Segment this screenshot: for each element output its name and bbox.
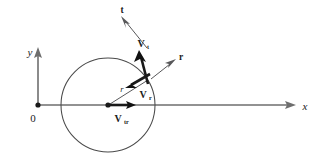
vtr-symbol: V: [114, 113, 122, 124]
origin-dot: [35, 102, 40, 107]
unit-vector-r-label: r: [179, 52, 184, 62]
radius-label: r: [120, 84, 124, 94]
unit-vector-t-label: t: [120, 5, 124, 15]
velocity-vector-vt-label: V t: [137, 38, 150, 50]
circular-motion-vector-diagram: y x 0 t r r V t V r V tr: [0, 0, 318, 163]
y-axis-label: y: [27, 46, 33, 58]
velocity-vector-vr-label: V r: [139, 89, 152, 101]
vt-subscript: t: [147, 43, 150, 50]
unit-vector-r-group: [151, 59, 176, 79]
velocity-vector-vtr-label: V tr: [114, 113, 129, 125]
vtr-subscript: tr: [124, 118, 129, 125]
y-axis-group: [34, 47, 42, 105]
x-axis-label: x: [302, 100, 308, 112]
circle-center-dot: [105, 102, 110, 107]
vr-subscript: r: [149, 94, 152, 101]
x-axis-group: [38, 101, 296, 109]
origin-label: 0: [30, 112, 36, 124]
unit-vector-t-arrowhead: [121, 16, 130, 28]
unit-vector-r-line: [151, 64, 170, 79]
vr-symbol: V: [139, 89, 147, 100]
velocity-vector-vt-arrowhead: [134, 50, 146, 62]
vt-symbol: V: [137, 38, 145, 49]
vector-diagram-figure: y x 0 t r r V t V r V tr: [0, 0, 318, 163]
velocity-vector-vtr-group: [110, 101, 136, 109]
